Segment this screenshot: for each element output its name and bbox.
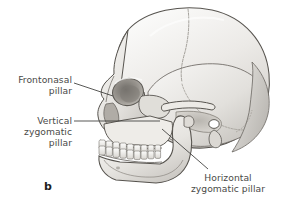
horizontal-zygomatic-pillar-label-line1: Horizontal — [176, 172, 280, 183]
horizontal-zygomatic-pillar-label: Horizontal zygomatic pillar — [176, 172, 280, 194]
figure-letter-label: b — [40, 180, 56, 193]
mental-foramen — [116, 167, 120, 170]
vertical-zygomatic-pillar-label-line3: pillar — [0, 137, 72, 148]
vertical-zygomatic-pillar-label-line1: Vertical — [0, 115, 72, 126]
anatomical-figure: Frontonasal pillar Vertical zygomatic pi… — [0, 0, 281, 202]
frontonasal-pillar-label: Frontonasal pillar — [0, 74, 72, 96]
vertical-zygomatic-pillar-label-line2: zygomatic — [0, 126, 72, 137]
frontonasal-pillar-label-line2: pillar — [0, 85, 72, 96]
mandibular-condyle — [184, 116, 194, 127]
horizontal-zygomatic-pillar-label-line2: zygomatic pillar — [176, 183, 280, 194]
frontonasal-pillar-label-line1: Frontonasal — [0, 74, 72, 85]
external-acoustic-meatus — [209, 120, 219, 129]
vertical-zygomatic-pillar-label: Vertical zygomatic pillar — [0, 115, 72, 149]
